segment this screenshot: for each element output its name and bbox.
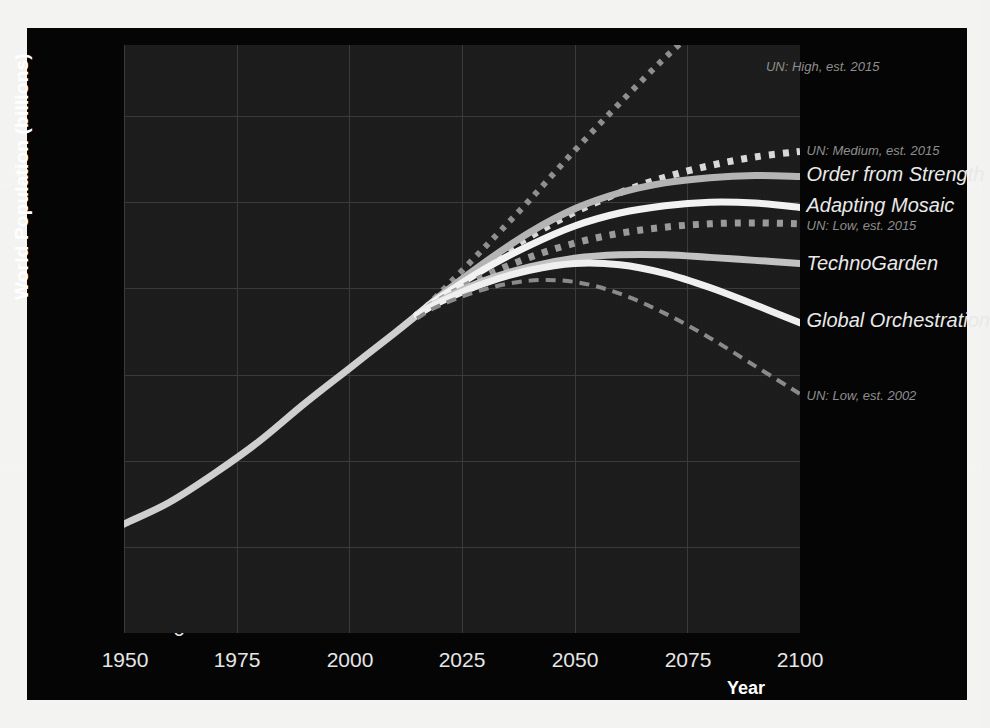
- series-label-un-low-est-2002: UN: Low, est. 2002: [807, 388, 917, 403]
- series-label-order-from-strength: Order from Strength: [807, 163, 985, 186]
- chart-figure: World Population (billions) 12 10 8 6 4 …: [27, 28, 967, 700]
- plot-clip: [124, 45, 800, 633]
- x-tick-2100: 2100: [755, 648, 845, 672]
- series-lines: [124, 45, 800, 633]
- x-tick-2025: 2025: [417, 648, 507, 672]
- x-tick-2000: 2000: [305, 648, 395, 672]
- series-line-order-from-strength: [417, 175, 800, 315]
- series-label-adapting-mosaic: Adapting Mosaic: [807, 194, 955, 217]
- series-label-un-high-est-2015: UN: High, est. 2015: [766, 59, 879, 74]
- x-tick-1975: 1975: [192, 648, 282, 672]
- y-axis-title: World Population (billions): [11, 0, 33, 300]
- x-tick-2075: 2075: [643, 648, 733, 672]
- series-line-historical: [124, 315, 417, 524]
- plot-area: [124, 45, 800, 633]
- series-label-technogarden: TechnoGarden: [807, 252, 939, 275]
- x-tick-2050: 2050: [530, 648, 620, 672]
- x-axis-title: Year: [727, 678, 765, 699]
- x-tick-1950: 1950: [80, 648, 170, 672]
- series-label-un-low-est-2015: UN: Low, est. 2015: [807, 218, 917, 233]
- series-label-un-medium-est-2015: UN: Medium, est. 2015: [807, 143, 940, 158]
- series-label-global-orchestration: Global Orchestration: [807, 309, 990, 332]
